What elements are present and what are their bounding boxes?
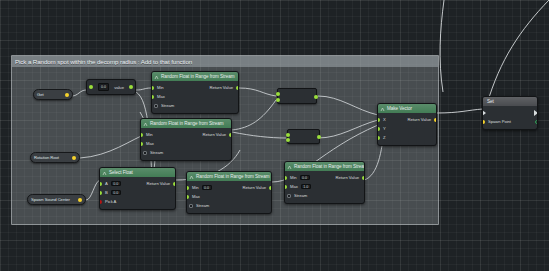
pin-stream-checkbox[interactable] [189, 204, 193, 208]
pin-min[interactable] [140, 133, 143, 137]
pin-x[interactable] [377, 118, 380, 122]
pin-stream-checkbox[interactable] [287, 194, 291, 198]
add-output-pin[interactable] [317, 135, 321, 139]
pin-stream-checkbox[interactable] [154, 104, 158, 108]
add-input-b-pin[interactable] [286, 138, 290, 142]
variable-label: Rotation Root [34, 155, 59, 160]
variable-output-pin[interactable] [78, 198, 82, 202]
pin-return-value[interactable] [434, 118, 437, 122]
pin-min[interactable] [151, 86, 154, 90]
add-node[interactable] [287, 129, 320, 144]
comment-title[interactable]: Pick a Random spot within the decomp rad… [12, 56, 438, 67]
random-float-in-range-node-1[interactable]: Random Float in Range from Stream Min Re… [151, 71, 239, 114]
pin-label-return-value: Return Value [242, 185, 266, 190]
pin-z[interactable] [377, 136, 380, 140]
random-float-in-range-node-4[interactable]: Random Float in Range from Stream Min 0.… [284, 161, 365, 204]
pin-label-max: Max [157, 94, 165, 99]
pin-label-max: Max [146, 141, 154, 146]
node-title-bar[interactable]: Random Float in Range from Stream [141, 119, 231, 128]
multiply-input-a-pin[interactable] [276, 92, 280, 96]
pin-label-spawn-point: Spawn Point [488, 119, 511, 124]
pin-max[interactable] [284, 185, 287, 189]
pin-label-min: Min [157, 85, 164, 90]
pin-max[interactable] [151, 95, 154, 99]
random-float-in-range-node-3[interactable]: Random Float in Range from Stream Min 0.… [186, 171, 272, 214]
function-icon [380, 106, 385, 111]
value-entry-label: value [114, 85, 124, 90]
pin-label-stream: Stream [196, 203, 209, 208]
multiply-node[interactable] [277, 88, 317, 104]
pin-return-value[interactable] [269, 186, 272, 190]
node-title-label: Random Float in Range from Stream [196, 174, 269, 179]
pin-label-stream: Stream [161, 103, 174, 108]
get-variable-node[interactable]: Get [33, 89, 73, 100]
variable-spawn-sound-center[interactable]: Spawn Sound Center [27, 194, 86, 205]
node-title-bar[interactable]: Random Float in Range from Stream [285, 162, 364, 171]
pin-label-return-value: Return Value [335, 175, 359, 180]
pin-b[interactable] [99, 191, 102, 195]
node-title-label: Random Float in Range from Stream [161, 74, 234, 79]
pin-spawn-point[interactable] [482, 120, 485, 124]
pin-return-value[interactable] [173, 182, 176, 186]
variable-rotation-root[interactable]: Rotation Root [30, 152, 80, 163]
set-spawn-point-node[interactable]: Set Spawn Point [482, 96, 538, 130]
multiply-output-pin[interactable] [314, 95, 318, 99]
pin-return-value[interactable] [229, 133, 232, 137]
exec-in-pin[interactable] [482, 110, 486, 116]
pin-max[interactable] [186, 195, 189, 199]
make-vector-node[interactable]: Make Vector X Return Value Y Z [377, 103, 437, 146]
pin-label-max: Max [290, 184, 298, 189]
multiply-input-b-pin[interactable] [276, 98, 280, 102]
select-float-node[interactable]: Select Float A 0.0 Return Value B 0.0 [99, 167, 176, 210]
node-title-label: Random Float in Range from Stream [150, 121, 223, 126]
function-icon [189, 174, 194, 179]
node-title-bar[interactable]: Random Float in Range from Stream [187, 172, 271, 181]
pin-label-min: Min [290, 175, 297, 180]
value-entry-output-pin[interactable] [129, 85, 133, 89]
pin-return-value[interactable] [236, 86, 239, 90]
blueprint-graph-canvas[interactable]: Pick a Random spot within the decomp rad… [0, 0, 549, 271]
pin-label-max: Max [192, 194, 200, 199]
pin-label-return-value: Return Value [202, 132, 226, 137]
pin-label-y: Y [383, 126, 386, 131]
pin-label-stream: Stream [294, 193, 307, 198]
value-entry-field[interactable]: 0.0 [98, 83, 109, 91]
pin-value-min[interactable]: 0.0 [202, 185, 212, 191]
variable-label: Spawn Sound Center [31, 197, 70, 202]
node-title-bar[interactable]: Select Float [100, 168, 175, 177]
pin-min[interactable] [284, 176, 287, 180]
pin-stream-checkbox[interactable] [143, 151, 147, 155]
pin-value-min[interactable]: 0.0 [300, 175, 310, 181]
function-icon [287, 164, 292, 169]
pin-max[interactable] [140, 142, 143, 146]
pin-label-b: B [105, 190, 108, 195]
pin-spawn-point-out[interactable] [535, 120, 538, 124]
add-input-a-pin[interactable] [286, 133, 290, 137]
pin-return-value[interactable] [362, 176, 365, 180]
get-output-pin[interactable] [65, 93, 69, 97]
node-title-bar[interactable]: Random Float in Range from Stream [152, 72, 238, 81]
pin-label-z: Z [383, 135, 386, 140]
node-title-label: Random Float in Range from Stream [294, 164, 364, 169]
value-entry-input-pin[interactable] [89, 85, 93, 89]
node-title-bar[interactable]: Set [483, 97, 537, 106]
pin-value-max[interactable]: 1.0 [301, 184, 311, 190]
pin-y[interactable] [377, 127, 380, 131]
pin-pick-a[interactable] [99, 200, 102, 204]
exec-out-pin[interactable] [534, 110, 538, 116]
value-entry-node[interactable]: 0.0 value [86, 79, 136, 95]
node-title-label: Select Float [109, 170, 133, 175]
pin-label-a: A [105, 181, 108, 186]
pin-label-return-value: Return Value [209, 85, 233, 90]
pin-label-return-value: Return Value [407, 117, 431, 122]
node-title-bar[interactable]: Make Vector [378, 104, 436, 113]
pin-min[interactable] [186, 186, 189, 190]
pin-label-x: X [383, 117, 386, 122]
pin-value-a[interactable]: 0.0 [111, 181, 121, 187]
random-float-in-range-node-2[interactable]: Random Float in Range from Stream Min Re… [140, 118, 232, 161]
variable-output-pin[interactable] [72, 156, 76, 160]
pin-label-stream: Stream [150, 150, 163, 155]
pin-a[interactable] [99, 182, 102, 186]
get-variable-label: Get [37, 92, 44, 97]
pin-value-b[interactable]: 0.0 [111, 190, 121, 196]
